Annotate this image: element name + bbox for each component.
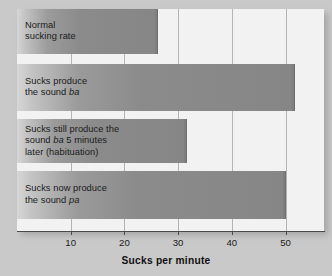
bar-label-line: later (habituation) <box>25 147 119 159</box>
plain-text: the sound <box>25 87 69 97</box>
tick-label-50: 50 <box>271 237 301 248</box>
plain-text: sound <box>25 135 53 145</box>
tick-mark-10 <box>71 231 72 235</box>
plain-text: Sucks produce <box>25 76 87 86</box>
plot-area: Normalsucking rateSucks producethe sound… <box>17 9 324 231</box>
bar-label-line: sound ba 5 minutes <box>25 135 119 147</box>
plain-text: Sucks still produce the <box>25 124 119 134</box>
x-axis-title: Sucks per minute <box>0 255 332 266</box>
tick-label-10: 10 <box>56 237 86 248</box>
plain-text: Normal <box>25 20 55 30</box>
bar-label-line: Sucks produce <box>25 76 87 88</box>
bar-label-line: sucking rate <box>25 31 76 43</box>
bar-label-line: Normal <box>25 20 76 32</box>
emphasis-text: pa <box>69 195 79 205</box>
bar-end-cap-2 <box>292 64 294 111</box>
tick-label-30: 30 <box>163 237 193 248</box>
tick-mark-20 <box>124 231 125 235</box>
plain-text: the sound <box>25 195 69 205</box>
bar-chart-figure: Normalsucking rateSucks producethe sound… <box>0 0 332 276</box>
bar-end-cap-3 <box>184 119 186 163</box>
tick-mark-50 <box>286 231 287 235</box>
x-axis-line <box>17 231 325 232</box>
bar-label-4: Sucks now producethe sound pa <box>25 183 107 206</box>
gridline-50 <box>286 9 287 231</box>
tick-mark-40 <box>232 231 233 235</box>
bar-label-1: Normalsucking rate <box>25 20 76 43</box>
bar-label-line: the sound ba <box>25 87 87 99</box>
bar-label-2: Sucks producethe sound ba <box>25 76 87 99</box>
emphasis-text: ba <box>69 87 79 97</box>
emphasis-text: ba <box>53 135 63 145</box>
bar-label-line: Sucks now produce <box>25 183 107 195</box>
tick-label-40: 40 <box>217 237 247 248</box>
bar-label-3: Sucks still produce thesound ba 5 minute… <box>25 124 119 159</box>
plain-text: Sucks now produce <box>25 183 107 193</box>
bar-label-line: the sound pa <box>25 195 107 207</box>
tick-mark-30 <box>178 231 179 235</box>
plain-text: sucking rate <box>25 31 76 41</box>
bar-label-line: Sucks still produce the <box>25 124 119 136</box>
tick-label-20: 20 <box>109 237 139 248</box>
bar-end-cap-4 <box>283 171 285 219</box>
plain-text: 5 minutes <box>64 135 107 145</box>
plain-text: later (habituation) <box>25 147 98 157</box>
bar-end-cap-1 <box>155 9 157 54</box>
